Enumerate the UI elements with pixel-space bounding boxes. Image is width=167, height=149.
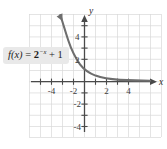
coordinate-plane: -4 -2 2 4 4 2 -2 -4 y x — [0, 0, 167, 149]
x-axis — [31, 78, 157, 85]
x-tick-label-pos2: 2 — [104, 86, 109, 96]
equation-equals: = — [23, 49, 34, 60]
function-equation-label: f(x) = 2−x + 1 — [3, 47, 69, 64]
equation-function-part: f(x) — [8, 49, 23, 60]
y-axis — [81, 15, 88, 132]
equation-tail: + 1 — [46, 49, 62, 60]
y-tick-label-pos4: 4 — [75, 32, 80, 42]
y-axis-label: y — [88, 6, 94, 16]
x-axis-label: x — [158, 77, 164, 87]
y-tick-label-neg2: -2 — [74, 99, 82, 109]
y-tick-label-neg4: -4 — [74, 122, 82, 132]
x-tick-label-pos4: 4 — [126, 86, 131, 96]
x-tick-label-neg2: -2 — [70, 86, 78, 96]
y-tick-label-pos2: 2 — [75, 55, 80, 65]
x-tick-label-neg4: -4 — [48, 86, 56, 96]
graph-figure: -4 -2 2 4 4 2 -2 -4 y x f(x) = 2−x + 1 — [0, 0, 167, 149]
